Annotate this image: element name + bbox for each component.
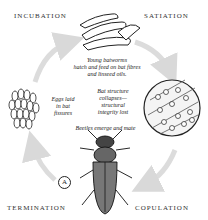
beetle-illustration: [80, 130, 132, 214]
marker-a: A: [58, 176, 71, 189]
stage-termination: TERMINATION: [7, 204, 66, 212]
caption-collapse: Bat structure collapses— structural inte…: [93, 88, 133, 116]
caption-beetles: Beetles emerge and mate: [58, 125, 153, 132]
eggs-illustration: [9, 89, 39, 129]
caption-eggs: Eggs laid in bat fissures: [48, 96, 78, 117]
stage-incubation: INCUBATION: [14, 12, 67, 20]
arrow-beetle-to-eggs: [33, 145, 55, 180]
arrow-bat-to-beetle: [145, 150, 175, 185]
lifecycle-diagram: INCUBATION SATIATION TERMINATION COPULAT…: [0, 0, 208, 220]
stage-copulation: COPULATION: [135, 204, 189, 212]
stage-satiation: SATIATION: [144, 12, 189, 20]
larvae-illustration: [80, 14, 140, 50]
caption-larvae: Young batworms hatch and feed on bat fib…: [62, 57, 152, 78]
